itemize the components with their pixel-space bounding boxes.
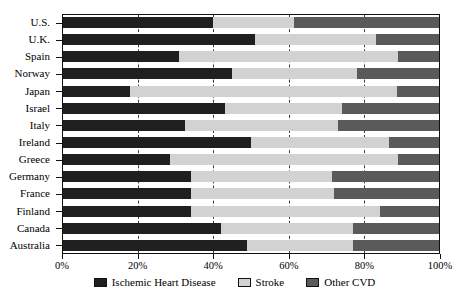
y-axis-label: Australia <box>0 240 56 251</box>
x-axis-tick <box>289 254 290 259</box>
bar-segment <box>191 188 335 199</box>
y-axis-label: U.S. <box>0 17 56 28</box>
legend-label: Other CVD <box>324 276 375 288</box>
bar-segment <box>62 86 130 97</box>
bar-segment <box>62 68 232 79</box>
bar-segment <box>398 51 440 62</box>
y-axis-label: Germany <box>0 171 56 182</box>
legend-label: Stroke <box>256 276 285 288</box>
bar-segment <box>232 68 357 79</box>
bar-row <box>62 34 440 45</box>
y-axis-label: Israel <box>0 103 56 114</box>
stacked-bar-chart: U.S.U.K.SpainNorwayJapanIsraelItalyIrela… <box>0 0 469 303</box>
x-axis-tick <box>364 254 365 259</box>
y-axis-label: Greece <box>0 154 56 165</box>
bar-row <box>62 223 440 234</box>
bar-segment <box>62 51 179 62</box>
bar-segment <box>338 120 440 131</box>
x-axis-tick-label: 100% <box>428 260 453 272</box>
y-axis-label: Spain <box>0 51 56 62</box>
x-axis-tick <box>138 254 139 259</box>
bar-row <box>62 120 440 131</box>
bar-segment <box>62 103 225 114</box>
bar-segment <box>62 171 191 182</box>
bar-segment <box>213 17 294 28</box>
bar-segment <box>294 17 440 28</box>
y-axis-label: Finland <box>0 206 56 217</box>
legend-swatch-icon <box>94 278 107 287</box>
x-axis-tick-label: 0% <box>55 260 69 272</box>
bar-row <box>62 137 440 148</box>
bar-segment <box>342 103 440 114</box>
bar-segment <box>397 86 440 97</box>
bar-segment <box>398 154 440 165</box>
bar-segment <box>389 137 440 148</box>
bar-segment <box>130 86 396 97</box>
y-axis-label: France <box>0 188 56 199</box>
bar-segment <box>62 223 221 234</box>
bar-segment <box>62 120 185 131</box>
bar-segment <box>332 171 440 182</box>
x-axis-tick <box>440 254 441 259</box>
bar-row <box>62 103 440 114</box>
bar-segment <box>380 206 440 217</box>
chart-legend: Ischemic Heart DiseaseStrokeOther CVD <box>0 276 469 288</box>
bar-row <box>62 171 440 182</box>
legend-swatch-icon <box>306 278 319 287</box>
legend-item[interactable]: Stroke <box>238 276 285 288</box>
x-axis-tick <box>213 254 214 259</box>
bar-segment <box>62 137 251 148</box>
x-axis-tick-label: 40% <box>204 260 223 272</box>
bar-segment <box>247 240 353 251</box>
bar-row <box>62 51 440 62</box>
bar-segment <box>225 103 342 114</box>
y-axis-label: Norway <box>0 68 56 79</box>
bar-segment <box>221 223 353 234</box>
plot-area <box>62 14 440 254</box>
bar-segment <box>62 188 191 199</box>
bar-segment <box>255 34 376 45</box>
x-axis-tick-label: 20% <box>128 260 147 272</box>
bar-segment <box>170 154 399 165</box>
bar-segment <box>179 51 398 62</box>
bar-segment <box>62 240 247 251</box>
bar-segment <box>251 137 389 148</box>
bar-row <box>62 17 440 28</box>
bar-row <box>62 206 440 217</box>
bar-row <box>62 154 440 165</box>
bar-segment <box>334 188 440 199</box>
legend-item[interactable]: Other CVD <box>306 276 375 288</box>
bar-row <box>62 240 440 251</box>
bar-segment <box>62 34 255 45</box>
bar-rows <box>62 14 440 254</box>
legend-label: Ischemic Heart Disease <box>112 276 216 288</box>
bar-segment <box>62 154 170 165</box>
y-axis-label: Ireland <box>0 137 56 148</box>
legend-swatch-icon <box>238 278 251 287</box>
y-axis-label: U.K. <box>0 34 56 45</box>
bar-segment <box>353 240 440 251</box>
legend-item[interactable]: Ischemic Heart Disease <box>94 276 216 288</box>
bar-segment <box>376 34 440 45</box>
y-axis-label: Italy <box>0 120 56 131</box>
bar-segment <box>185 120 338 131</box>
bar-row <box>62 188 440 199</box>
y-axis-label: Japan <box>0 86 56 97</box>
bar-row <box>62 68 440 79</box>
bar-segment <box>62 17 213 28</box>
x-axis-tick-label: 80% <box>355 260 374 272</box>
bar-row <box>62 86 440 97</box>
bar-segment <box>191 206 380 217</box>
bar-segment <box>353 223 440 234</box>
bar-segment <box>191 171 333 182</box>
y-axis-label: Canada <box>0 223 56 234</box>
x-axis-tick <box>62 254 63 259</box>
bar-segment <box>357 68 440 79</box>
bar-segment <box>62 206 191 217</box>
y-axis-category-labels: U.S.U.K.SpainNorwayJapanIsraelItalyIrela… <box>0 14 56 254</box>
x-axis-tick-label: 60% <box>279 260 298 272</box>
